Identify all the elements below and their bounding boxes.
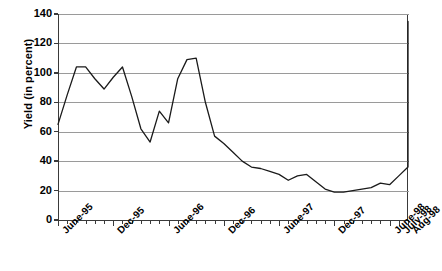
x-tick-mark-5	[104, 220, 105, 224]
x-tick-mark-24	[279, 220, 280, 226]
x-tick-mark-28	[316, 220, 317, 224]
x-tick-mark-3	[86, 220, 87, 224]
x-tick-mark-12	[169, 220, 170, 226]
series-yield	[58, 14, 408, 220]
y-tick-label-140: 140	[20, 8, 52, 19]
x-tick-mark-0	[58, 220, 59, 226]
x-tick-mark-11	[159, 220, 160, 224]
x-tick-mark-29	[325, 220, 326, 224]
y-tick-label-120: 120	[20, 37, 52, 48]
y-tick-label-40: 40	[20, 155, 52, 166]
y-tick-label-20: 20	[20, 185, 52, 196]
x-tick-mark-9	[141, 220, 142, 224]
x-tick-mark-10	[150, 220, 151, 224]
x-tick-mark-23	[270, 220, 271, 224]
series-yield-path	[58, 21, 408, 192]
x-tick-mark-4	[95, 220, 96, 224]
x-tick-mark-35	[380, 220, 381, 224]
x-tick-mark-6	[113, 220, 114, 226]
x-tick-mark-15	[196, 220, 197, 224]
x-tick-mark-22	[261, 220, 262, 224]
x-tick-mark-36	[390, 220, 391, 226]
y-tick-label-80: 80	[20, 96, 52, 107]
x-tick-mark-30	[334, 220, 335, 226]
x-tick-mark-18	[224, 220, 225, 226]
x-tick-mark-33	[362, 220, 363, 224]
x-tick-mark-16	[205, 220, 206, 224]
y-tick-label-0: 0	[20, 214, 52, 225]
x-tick-mark-21	[251, 220, 252, 224]
x-tick-mark-17	[215, 220, 216, 224]
y-tick-label-60: 60	[20, 126, 52, 137]
y-tick-label-100: 100	[20, 67, 52, 78]
x-tick-mark-27	[307, 220, 308, 224]
x-tick-mark-34	[371, 220, 372, 224]
